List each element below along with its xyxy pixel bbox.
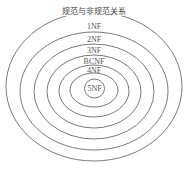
label-4nf: 4NF xyxy=(87,66,101,75)
label-bcnf: BCNF xyxy=(84,57,105,66)
label-2nf: 2NF xyxy=(87,35,101,44)
label-3nf: 3NF xyxy=(87,46,101,55)
label-1nf: 1NF xyxy=(87,22,101,31)
label-5nf: 5NF xyxy=(87,84,101,93)
outer-ring-label: 规范与非规范关系 xyxy=(61,7,127,16)
